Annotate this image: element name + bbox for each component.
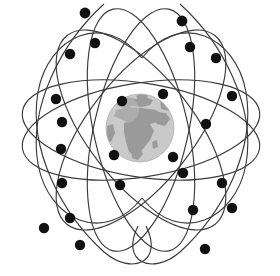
satellite-marker bbox=[51, 94, 61, 104]
satellite-marker bbox=[65, 49, 75, 59]
satellite-marker bbox=[217, 178, 227, 188]
satellite-marker bbox=[158, 89, 168, 99]
satellite-marker bbox=[227, 91, 237, 101]
constellation-canvas bbox=[0, 0, 280, 276]
satellite-marker bbox=[188, 205, 198, 215]
satellite-marker bbox=[90, 38, 100, 48]
satellite-marker bbox=[57, 117, 67, 127]
gps-constellation-figure bbox=[0, 0, 280, 276]
satellite-marker bbox=[177, 16, 188, 27]
satellite-marker bbox=[211, 53, 221, 63]
satellite-marker bbox=[56, 144, 66, 154]
satellite-marker bbox=[115, 180, 125, 190]
satellite-marker bbox=[168, 152, 178, 162]
satellite-marker bbox=[200, 244, 210, 254]
satellite-marker bbox=[109, 150, 119, 160]
satellite-marker bbox=[75, 240, 85, 250]
satellite-marker bbox=[117, 96, 127, 106]
satellite-marker bbox=[178, 168, 188, 178]
satellite-marker bbox=[39, 223, 49, 233]
satellite-marker bbox=[227, 203, 237, 213]
satellite-marker bbox=[65, 213, 75, 223]
satellite-marker bbox=[80, 8, 91, 19]
satellite-marker bbox=[57, 178, 67, 188]
satellite-marker bbox=[201, 119, 211, 129]
satellite-marker bbox=[185, 42, 195, 52]
